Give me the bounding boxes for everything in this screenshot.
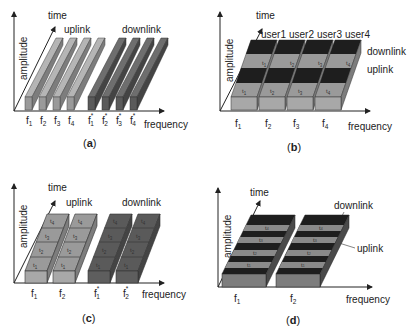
svg-text:f4: f4 <box>68 115 75 127</box>
svg-text:f1: f1 <box>234 293 241 305</box>
frequency-tick-labels: f1 f2 <box>234 293 297 305</box>
caption-d: (d) <box>286 314 300 326</box>
time-label: time <box>256 10 275 21</box>
svg-text:f2: f2 <box>59 288 66 300</box>
amplitude-label: amplitude <box>224 38 235 82</box>
multiple-access-diagram: amplitude time frequency uplink downlink… <box>0 0 412 333</box>
slabs <box>222 215 349 287</box>
panel-a: amplitude time frequency uplink downlink… <box>14 10 188 149</box>
slabs <box>25 214 160 283</box>
svg-text:f2: f2 <box>290 293 297 305</box>
downlink-label: downlink <box>334 200 374 211</box>
downlink-label: downlink <box>367 46 407 57</box>
svg-text:f*2: f*2 <box>102 112 108 127</box>
frequency-label: frequency <box>348 121 392 132</box>
user-labels: user1 user2 user3 user4 <box>261 29 370 40</box>
uplink-label: uplink <box>357 243 384 254</box>
svg-text:f1: f1 <box>26 115 33 127</box>
svg-text:f*1: f*1 <box>94 285 100 300</box>
user-slabs <box>231 40 361 110</box>
downlink-label: downlink <box>122 197 162 208</box>
svg-text:f2: f2 <box>40 115 47 127</box>
frequency-tick-labels: f1 f2 f3 f4 <box>235 118 329 130</box>
frequency-label: frequency <box>144 119 188 130</box>
svg-text:f*4: f*4 <box>130 112 136 127</box>
frequency-label: frequency <box>142 289 186 300</box>
svg-text:f3: f3 <box>293 118 300 130</box>
caption-a: (a) <box>83 137 96 149</box>
svg-text:f2: f2 <box>265 118 272 130</box>
svg-text:user1: user1 <box>261 29 286 40</box>
amplitude-label: amplitude <box>222 214 233 258</box>
frequency-tick-labels: f1 f2 f*1 f*2 <box>31 285 129 300</box>
svg-text:f*1: f*1 <box>88 112 94 127</box>
uplink-label: uplink <box>66 197 93 208</box>
frequency-tick-labels: f1 f2 f3 f4 f*1 f*2 f*3 f*4 <box>26 112 136 127</box>
amplitude-label: amplitude <box>18 204 29 248</box>
svg-text:f*2: f*2 <box>123 285 129 300</box>
svg-text:user2: user2 <box>289 29 314 40</box>
svg-text:f1: f1 <box>31 288 38 300</box>
panel-d: amplitude time frequency downlink uplink <box>218 187 390 326</box>
svg-text:f1: f1 <box>235 118 242 130</box>
uplink-label: uplink <box>64 24 91 35</box>
caption-c: (c) <box>82 312 95 324</box>
time-label: time <box>48 10 67 21</box>
svg-text:user4: user4 <box>345 29 370 40</box>
panel-b: amplitude time frequency downlink uplink <box>220 10 407 153</box>
svg-text:user3: user3 <box>317 29 342 40</box>
caption-b: (b) <box>287 141 301 153</box>
downlink-label: downlink <box>122 24 162 35</box>
time-label: time <box>250 187 269 198</box>
panel-c: amplitude time frequency uplink downlink <box>14 182 186 324</box>
uplink-label: uplink <box>367 64 394 75</box>
amplitude-label: amplitude <box>18 36 29 80</box>
time-label: time <box>48 182 67 193</box>
svg-text:f4: f4 <box>322 118 329 130</box>
svg-text:f*3: f*3 <box>116 112 122 127</box>
svg-text:f3: f3 <box>54 115 61 127</box>
frequency-label: frequency <box>346 294 390 305</box>
